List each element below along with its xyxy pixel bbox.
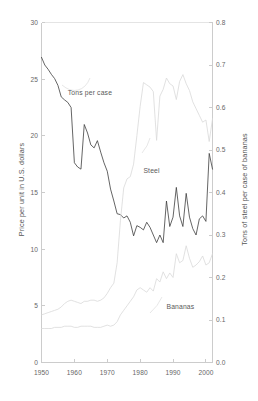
x-tick-label: 1960 [58, 369, 90, 376]
y-tick-label-left: 30 [18, 19, 38, 26]
y-tick-label-right: 0.7 [216, 61, 240, 68]
x-tick-label: 1970 [91, 369, 123, 376]
y-tick-label-right: 0.3 [216, 231, 240, 238]
series-annotation-steel: Steel [143, 167, 159, 174]
leader-steel [142, 138, 150, 153]
x-tick-label: 2000 [190, 369, 222, 376]
y-axis-right-title: Tons of steel per case of bananas [240, 115, 249, 265]
y-tick-label-right: 0.5 [216, 146, 240, 153]
axis-frame [42, 23, 213, 363]
y-tick-label-left: 0 [18, 359, 38, 366]
series-annotation-tons-per-case: Tons per case [68, 89, 112, 96]
x-tick-label: 1950 [26, 369, 58, 376]
x-tick-label: 1990 [157, 369, 189, 376]
data-series [42, 57, 213, 328]
series-line-bananas [42, 246, 213, 329]
y-tick-label-right: 0.6 [216, 104, 240, 111]
y-tick-label-right: 0.4 [216, 189, 240, 196]
y-tick-label-right: 0.0 [216, 359, 240, 366]
leader-bananas [150, 297, 162, 313]
y-tick-label-left: 15 [18, 189, 38, 196]
y-tick-label-left: 25 [18, 76, 38, 83]
chart-figure: Price per unit in U.S. dollars Tons of s… [0, 0, 258, 401]
x-tick-label: 1980 [124, 369, 156, 376]
series-line-steel [42, 75, 213, 315]
y-tick-label-left: 5 [18, 302, 38, 309]
y-tick-label-right: 0.1 [216, 316, 240, 323]
axis-ticks [42, 23, 213, 363]
chart-plot-area [0, 0, 258, 401]
y-tick-label-right: 0.8 [216, 19, 240, 26]
y-tick-label-right: 0.2 [216, 274, 240, 281]
y-tick-label-left: 10 [18, 246, 38, 253]
series-annotation-bananas: Bananas [166, 303, 194, 310]
y-tick-label-left: 20 [18, 132, 38, 139]
